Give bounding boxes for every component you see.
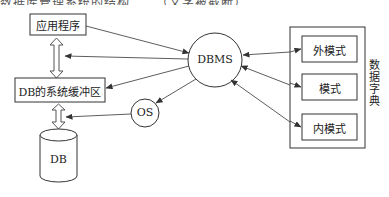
os-to-db-link-arrow <box>66 114 131 117</box>
external-schema-to-dbms-arrow <box>243 52 290 55</box>
dbms-to-buffer-arrow <box>106 66 189 88</box>
data-dictionary-label: 数据字典 <box>368 60 380 108</box>
internal-schema-label: 内模式 <box>302 120 357 136</box>
internal-schema-to-dbms-arrow <box>231 80 290 122</box>
buffer-label: DB的系统缓冲区 <box>15 83 105 99</box>
dbms-label: DBMS <box>188 53 242 66</box>
dbms-to-app-link-arrow <box>65 56 188 59</box>
dbms-to-os-arrow <box>156 79 196 103</box>
db-label: DB <box>40 153 77 166</box>
buffer-db-double-arrow-icon <box>52 104 65 129</box>
schema-to-dbms-arrow <box>241 66 290 85</box>
app-buffer-double-arrow-icon <box>50 38 63 78</box>
app-to-dbms-arrow <box>86 26 189 53</box>
external-schema-label: 外模式 <box>302 42 357 58</box>
os-label: OS <box>131 106 159 119</box>
schema-label: 模式 <box>302 80 357 96</box>
app-label: 应用程序 <box>30 17 86 33</box>
